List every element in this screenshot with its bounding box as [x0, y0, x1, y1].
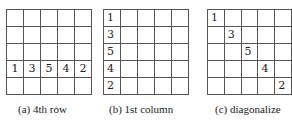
grid-row: 3	[104, 27, 189, 44]
grid-cell	[224, 10, 241, 27]
grid-cell: 2	[104, 78, 121, 95]
grid-cell	[75, 44, 92, 61]
grid-cell	[172, 61, 189, 78]
grid-row	[7, 27, 92, 44]
grid-cell	[7, 78, 24, 95]
grid-diagonalize: 13542	[207, 9, 292, 95]
grid-cell	[172, 44, 189, 61]
grid-cell	[155, 78, 172, 95]
grid-cell	[24, 44, 41, 61]
grid-cell	[208, 61, 225, 78]
grid-cell	[75, 27, 92, 44]
grid-row	[7, 78, 92, 95]
grid-cell	[121, 44, 138, 61]
grid-cell	[41, 44, 58, 61]
grid-cell	[75, 78, 92, 95]
grid-cell	[241, 27, 258, 44]
grid-cell	[75, 10, 92, 27]
grid-cell	[275, 27, 292, 44]
grid-cell	[58, 78, 75, 95]
grid-cell	[172, 78, 189, 95]
grid-cell	[241, 78, 258, 95]
grid-cell	[258, 44, 275, 61]
caption-b: (b) 1st column	[109, 103, 173, 115]
grid-cell	[275, 10, 292, 27]
grid-cell	[24, 10, 41, 27]
grid-row: 13542	[7, 61, 92, 78]
grid-cell	[172, 27, 189, 44]
grid-cell	[7, 27, 24, 44]
panel-1st-column: 13542	[103, 9, 189, 95]
grid-cell: 1	[104, 10, 121, 27]
grid-cell	[41, 10, 58, 27]
grid-cell	[208, 44, 225, 61]
grid-cell	[121, 27, 138, 44]
grid-cell	[138, 78, 155, 95]
grid-cell	[24, 78, 41, 95]
grid-cell	[275, 61, 292, 78]
grid-row: 4	[104, 61, 189, 78]
grid-cell: 3	[224, 27, 241, 44]
grid-cell	[155, 44, 172, 61]
grid-cell	[258, 78, 275, 95]
grid-row: 5	[208, 44, 292, 61]
grid-row: 4	[208, 61, 292, 78]
grid-cell	[172, 10, 189, 27]
panel-diagonalize: 13542	[207, 9, 292, 95]
grid-cell	[121, 78, 138, 95]
grid-cell	[138, 27, 155, 44]
grid-cell	[58, 10, 75, 27]
grid-row: 1	[104, 10, 189, 27]
grid-cell	[275, 44, 292, 61]
grid-cell	[138, 10, 155, 27]
grid-cell: 3	[24, 61, 41, 78]
grid-row	[7, 44, 92, 61]
grid-row	[7, 10, 92, 27]
grid-cell	[258, 27, 275, 44]
grid-cell: 5	[241, 44, 258, 61]
panel-4th-row: 13542	[6, 9, 92, 95]
grid-cell: 2	[75, 61, 92, 78]
grid-cell	[241, 10, 258, 27]
grid-cell: 1	[7, 61, 24, 78]
grid-row: 2	[208, 78, 292, 95]
grid-cell	[155, 27, 172, 44]
grid-cell	[208, 78, 225, 95]
grid-cell	[41, 27, 58, 44]
grid-cell	[224, 61, 241, 78]
grid-cell: 5	[41, 61, 58, 78]
grid-cell	[258, 10, 275, 27]
grid-cell	[58, 44, 75, 61]
grid-cell: 1	[208, 10, 225, 27]
caption-c: (c) diagonalize	[215, 103, 281, 115]
grid-cell	[121, 10, 138, 27]
grid-4th-row: 13542	[6, 9, 92, 95]
grid-cell	[24, 27, 41, 44]
grid-cell	[155, 61, 172, 78]
grid-cell	[7, 44, 24, 61]
grid-cell: 5	[104, 44, 121, 61]
grid-row: 5	[104, 44, 189, 61]
grid-cell: 3	[104, 27, 121, 44]
grid-row: 3	[208, 27, 292, 44]
grid-cell	[58, 27, 75, 44]
grid-row: 1	[208, 10, 292, 27]
grid-cell	[41, 78, 58, 95]
grid-cell	[138, 44, 155, 61]
grid-1st-column: 13542	[103, 9, 189, 95]
grid-cell	[155, 10, 172, 27]
grid-row: 2	[104, 78, 189, 95]
grid-cell	[121, 61, 138, 78]
grid-cell: 2	[275, 78, 292, 95]
grid-cell: 4	[104, 61, 121, 78]
caption-a: (a) 4th row	[18, 103, 67, 115]
grid-cell: 4	[258, 61, 275, 78]
grid-cell: 4	[58, 61, 75, 78]
grid-cell	[241, 61, 258, 78]
grid-cell	[224, 78, 241, 95]
grid-cell	[208, 27, 225, 44]
grid-cell	[224, 44, 241, 61]
grid-cell	[138, 61, 155, 78]
grid-cell	[7, 10, 24, 27]
